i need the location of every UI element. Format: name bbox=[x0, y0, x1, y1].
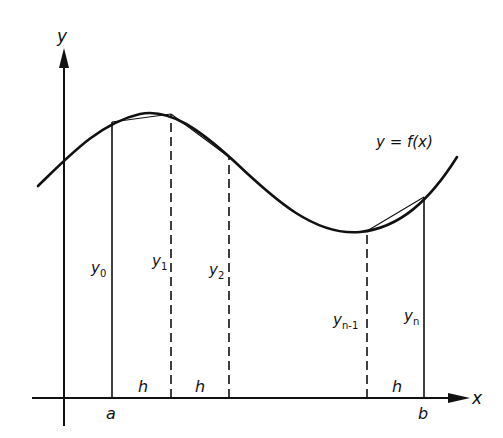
x-axis-label: x bbox=[471, 388, 483, 408]
svg-text:2: 2 bbox=[218, 270, 224, 281]
y-axis-label: y bbox=[56, 26, 68, 46]
step-label-h1: h bbox=[138, 377, 148, 396]
step-label-h2: h bbox=[195, 377, 205, 396]
trapezoidal-rule-diagram: y x y = f(x) a b h h h y 0 y 1 y 2 y n-1… bbox=[0, 0, 503, 438]
svg-text:n-1: n-1 bbox=[342, 320, 358, 331]
label-b: b bbox=[418, 404, 428, 423]
trapezoid-chords bbox=[112, 114, 424, 231]
svg-text:0: 0 bbox=[100, 268, 106, 279]
ordinate-label-y1: y 1 bbox=[151, 252, 167, 272]
svg-text:n: n bbox=[413, 316, 419, 327]
axes bbox=[32, 48, 470, 426]
ordinate-label-y0: y 0 bbox=[90, 259, 106, 279]
svg-text:1: 1 bbox=[161, 261, 167, 272]
curve-label: y = f(x) bbox=[375, 133, 433, 151]
ordinate-label-y2: y 2 bbox=[208, 261, 224, 281]
ordinate-label-yn-1: y n-1 bbox=[332, 311, 358, 331]
y-axis-arrow-icon bbox=[59, 48, 69, 68]
label-a: a bbox=[106, 404, 116, 423]
step-label-h3: h bbox=[392, 377, 402, 396]
x-axis-arrow-icon bbox=[448, 393, 470, 403]
ordinate-label-yn: y n bbox=[403, 307, 419, 327]
